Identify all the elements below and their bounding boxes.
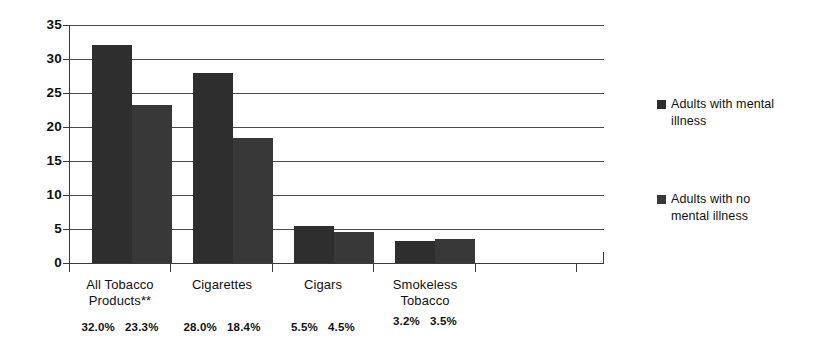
- x-axis-tick-mark: [272, 263, 273, 272]
- bar-cigars-mental-illness: [294, 226, 334, 263]
- value-label-series2: 18.4%: [227, 319, 261, 335]
- gridline-30: [70, 59, 604, 60]
- bar-smokeless-mental-illness: [395, 241, 435, 263]
- x-axis-tick-mark: [475, 263, 476, 272]
- category-label: Smokeless Tobacco: [365, 277, 485, 309]
- value-label-series1: 28.0%: [183, 319, 217, 335]
- bar-cigarettes-no-mental-illness: [233, 138, 273, 263]
- gridline-35: [70, 25, 604, 26]
- legend-label: Adults with mental illness: [671, 96, 774, 130]
- y-axis-tick-label: 5: [20, 222, 62, 236]
- y-axis-tick-label: 20: [20, 120, 62, 134]
- y-axis-tick-label: 30: [20, 52, 62, 66]
- plot-area: [69, 25, 604, 263]
- legend-swatch-icon: [657, 195, 666, 204]
- x-axis-tick-mark: [576, 263, 577, 272]
- y-axis-tick-label: 10: [20, 188, 62, 202]
- value-label-series2: 23.3%: [125, 319, 159, 335]
- bar-cigars-no-mental-illness: [334, 232, 374, 263]
- legend-label: Adults with no mental illness: [671, 191, 750, 225]
- bar-chart: 35 30 25 20 15 10 5 0: [0, 0, 838, 362]
- y-axis-tick-label: 25: [20, 86, 62, 100]
- bar-all-tobacco-mental-illness: [92, 45, 132, 263]
- value-label-series1: 32.0%: [81, 319, 115, 335]
- x-axis-category-smokeless-tobacco: Smokeless Tobacco 3.2%3.5%: [365, 277, 485, 329]
- x-axis-tick-mark: [69, 263, 70, 272]
- legend-item-mental-illness[interactable]: Adults with mental illness: [657, 96, 835, 130]
- category-value-labels: 3.2%3.5%: [365, 313, 485, 329]
- value-label-series2: 4.5%: [328, 319, 355, 335]
- bar-cigarettes-mental-illness: [193, 73, 233, 263]
- gridline-25: [70, 93, 604, 94]
- value-label-series1: 5.5%: [291, 319, 318, 335]
- y-axis-tick-label: 0: [20, 256, 62, 270]
- legend-swatch-icon: [657, 100, 666, 109]
- legend-item-no-mental-illness[interactable]: Adults with no mental illness: [657, 191, 835, 225]
- value-label-series2: 3.5%: [430, 313, 457, 329]
- x-axis-tick-mark: [170, 263, 171, 272]
- value-label-series1: 3.2%: [393, 313, 420, 329]
- y-axis-tick-label: 35: [20, 18, 62, 32]
- bar-smokeless-no-mental-illness: [435, 239, 475, 263]
- x-axis-right-cap: [603, 252, 604, 264]
- x-axis-line: [70, 263, 604, 264]
- y-axis-tick-label: 15: [20, 154, 62, 168]
- bar-all-tobacco-no-mental-illness: [132, 105, 172, 263]
- x-axis-tick-mark: [373, 263, 374, 272]
